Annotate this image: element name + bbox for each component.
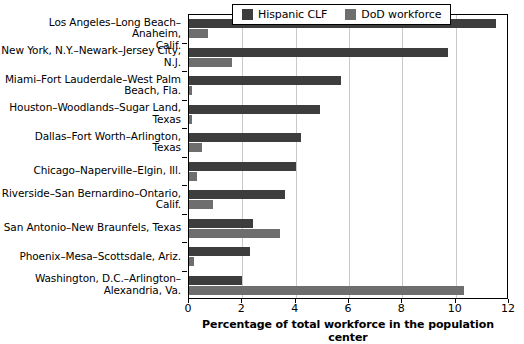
category-label: New York, N.Y.–Newark–Jersey City,N.J.	[0, 45, 181, 68]
category-label: Dallas–Fort Worth–Arlington,Texas	[0, 131, 181, 154]
legend-swatch-hispanic-clf	[242, 9, 253, 20]
legend-item-dod-workforce: DoD workforce	[345, 9, 441, 20]
bar-dod-workforce	[189, 200, 213, 209]
bar-dod-workforce	[189, 86, 192, 95]
bar-group	[189, 243, 507, 272]
bar-dod-workforce	[189, 143, 202, 152]
x-tick-label: 2	[229, 303, 253, 315]
category-label-line: Chicago–Naperville–Elgin, Ill.	[0, 165, 181, 177]
bar-hispanic-clf	[189, 219, 253, 228]
y-tick-mark	[182, 271, 187, 272]
category-label: Chicago–Naperville–Elgin, Ill.	[0, 165, 181, 177]
bar-dod-workforce	[189, 115, 192, 124]
bar-hispanic-clf	[189, 133, 301, 142]
bar-group	[189, 215, 507, 244]
category-label-line: New York, N.Y.–Newark–Jersey City,	[0, 45, 181, 57]
x-tick-label: 10	[443, 303, 467, 315]
category-label-line: Texas	[0, 142, 181, 154]
bar-hispanic-clf	[189, 276, 242, 285]
y-tick-mark	[182, 157, 187, 158]
category-label: Houston–Woodlands–Sugar Land,Texas	[0, 102, 181, 125]
category-label-line: Calif.	[0, 199, 181, 211]
bar-dod-workforce	[189, 257, 194, 266]
plot-area	[188, 14, 508, 299]
y-tick-mark	[182, 128, 187, 129]
bar-dod-workforce	[189, 286, 464, 295]
category-label-line: Phoenix–Mesa–Scottsdale, Ariz.	[0, 251, 181, 263]
category-label: Washington, D.C.–Arlington–Alexandria, V…	[0, 273, 181, 296]
x-tick-label: 4	[283, 303, 307, 315]
category-label-line: San Antonio–New Braunfels, Texas	[0, 222, 181, 234]
bar-hispanic-clf	[189, 48, 448, 57]
x-tick-label: 12	[496, 303, 520, 315]
bar-hispanic-clf	[189, 76, 341, 85]
y-tick-mark	[182, 43, 187, 44]
bar-dod-workforce	[189, 58, 232, 67]
bar-hispanic-clf	[189, 247, 250, 256]
category-label-line: Texas	[0, 114, 181, 126]
bar-group	[189, 72, 507, 101]
legend-label-dod-workforce: DoD workforce	[361, 9, 441, 20]
x-axis-title: Percentage of total workforce in the pop…	[188, 318, 508, 344]
y-tick-mark	[182, 214, 187, 215]
bar-group	[189, 101, 507, 130]
category-label-line: Alexandria, Va.	[0, 285, 181, 297]
bar-hispanic-clf	[189, 190, 285, 199]
category-label: Phoenix–Mesa–Scottsdale, Ariz.	[0, 251, 181, 263]
bar-hispanic-clf	[189, 105, 320, 114]
category-label-line: Riverside–San Bernardino–Ontario,	[0, 188, 181, 200]
x-tick-label: 8	[389, 303, 413, 315]
category-label-line: Beach, Fla.	[0, 85, 181, 97]
bars-layer	[189, 15, 507, 298]
category-label-line: N.J.	[0, 57, 181, 69]
category-label-line: Los Angeles–Long Beach–Anaheim,	[0, 17, 181, 40]
bar-group	[189, 186, 507, 215]
bar-group	[189, 44, 507, 73]
y-tick-mark	[182, 71, 187, 72]
bar-dod-workforce	[189, 29, 208, 38]
bar-group	[189, 129, 507, 158]
chart-legend: Hispanic CLF DoD workforce	[232, 4, 451, 25]
y-tick-mark	[182, 100, 187, 101]
legend-item-hispanic-clf: Hispanic CLF	[242, 9, 327, 20]
legend-swatch-dod-workforce	[345, 9, 356, 20]
category-axis-labels: Los Angeles–Long Beach–Anaheim,Calif.New…	[0, 14, 185, 299]
category-label: San Antonio–New Braunfels, Texas	[0, 222, 181, 234]
category-label: Riverside–San Bernardino–Ontario,Calif.	[0, 188, 181, 211]
bar-dod-workforce	[189, 229, 280, 238]
x-tick-label: 0	[176, 303, 200, 315]
bar-group	[189, 272, 507, 301]
y-tick-mark	[182, 185, 187, 186]
legend-label-hispanic-clf: Hispanic CLF	[258, 9, 327, 20]
x-tick-label: 6	[336, 303, 360, 315]
y-tick-mark	[182, 242, 187, 243]
bar-hispanic-clf	[189, 162, 296, 171]
category-label: Miami–Fort Lauderdale–West PalmBeach, Fl…	[0, 74, 181, 97]
bar-group	[189, 158, 507, 187]
bar-dod-workforce	[189, 172, 197, 181]
